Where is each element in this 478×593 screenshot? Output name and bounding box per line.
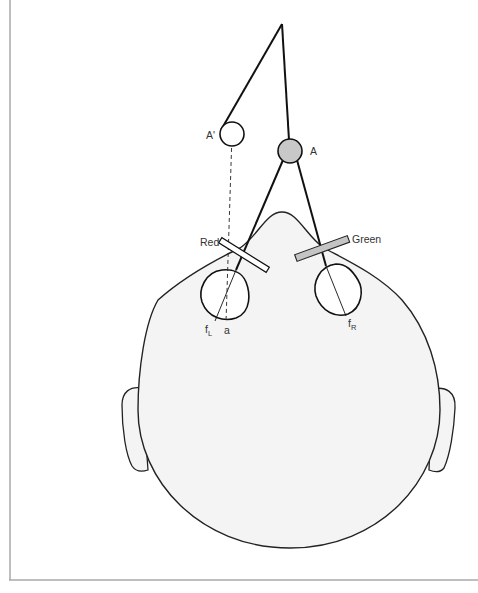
object-circle [278,139,302,163]
head-outline [138,212,440,548]
left-eye [201,270,249,320]
sight-line-apex-left [221,24,282,130]
red-filter-label: Red [200,236,219,248]
anaglyph-diagram: A' A Red Green fL a fR [0,0,478,593]
object-label: A [310,145,317,157]
apparent-object-circle [220,122,244,146]
sight-line-apex-right [282,24,289,140]
point-a-label: a [224,324,230,336]
green-filter-label: Green [352,233,381,245]
apparent-object-label: A' [206,129,215,141]
